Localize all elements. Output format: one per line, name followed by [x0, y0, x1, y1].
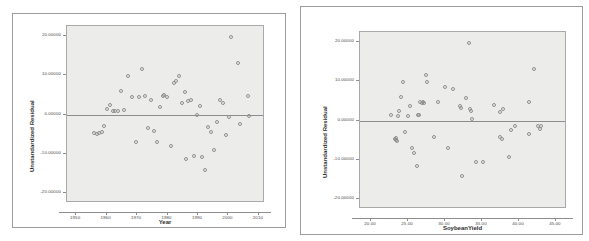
reference-line-zero-left	[67, 115, 263, 116]
data-point	[116, 109, 120, 113]
data-point	[229, 35, 233, 39]
y-axis-tick	[356, 159, 359, 160]
data-point	[467, 41, 471, 45]
data-point	[417, 113, 421, 117]
data-point	[221, 101, 225, 105]
data-point	[119, 89, 123, 93]
y-axis-tick-label: 10.00000	[26, 71, 61, 76]
x-axis-title-right: SoybeanYield	[359, 225, 566, 231]
data-point	[507, 155, 511, 159]
data-point	[397, 109, 401, 113]
y-axis-tick	[356, 198, 359, 199]
data-point	[140, 67, 144, 71]
data-point	[469, 109, 473, 113]
y-axis-tick-label: -20.00000	[26, 189, 61, 194]
data-point	[509, 128, 513, 132]
data-point	[105, 107, 109, 111]
y-axis-tick	[63, 35, 66, 36]
data-point	[399, 95, 403, 99]
plot-area-right	[359, 31, 566, 208]
data-point	[500, 137, 504, 141]
chart-frame-left: 20.0000010.000000.00000-10.00000-20.0000…	[12, 13, 286, 228]
data-point	[206, 125, 210, 129]
data-point	[401, 80, 405, 84]
y-axis-tick	[63, 153, 66, 154]
y-axis-tick	[63, 74, 66, 75]
data-point	[408, 104, 412, 108]
data-point	[532, 67, 536, 71]
data-point	[137, 95, 141, 99]
data-point	[184, 157, 188, 161]
data-point	[464, 96, 468, 100]
data-point	[424, 73, 428, 77]
data-point	[169, 144, 173, 148]
data-point	[474, 160, 478, 164]
data-point	[539, 124, 543, 128]
data-point	[152, 129, 156, 133]
data-point	[212, 148, 216, 152]
data-point	[451, 87, 455, 91]
data-point	[177, 74, 181, 78]
data-point	[395, 139, 399, 143]
y-axis-tick	[63, 114, 66, 115]
reference-line-zero-right	[360, 121, 565, 122]
data-point	[460, 174, 464, 178]
y-axis-tick-label: 10.00000	[319, 77, 354, 82]
data-point	[165, 95, 169, 99]
data-point	[498, 110, 502, 114]
data-point	[492, 103, 496, 107]
data-point	[446, 146, 450, 150]
y-axis-tick	[356, 80, 359, 81]
x-axis-line-left	[59, 212, 271, 213]
y-axis-tick	[356, 120, 359, 121]
data-point	[236, 61, 240, 65]
data-point	[122, 108, 126, 112]
data-point	[459, 106, 463, 110]
data-point	[195, 113, 199, 117]
y-axis-tick	[356, 41, 359, 42]
data-point	[158, 105, 162, 109]
y-axis-title-right: Unstandardized Residual	[322, 106, 328, 178]
data-point	[146, 126, 150, 130]
data-point	[203, 168, 207, 172]
data-point	[238, 122, 242, 126]
data-point	[513, 124, 517, 128]
data-point	[422, 101, 426, 105]
data-point	[432, 135, 436, 139]
y-axis-tick-label: -20.00000	[319, 195, 354, 200]
y-axis-title-left: Unstandardized Residual	[29, 100, 35, 172]
data-point	[198, 104, 202, 108]
data-point	[527, 132, 531, 136]
data-point	[425, 80, 429, 84]
y-axis-tick	[63, 192, 66, 193]
data-point	[143, 94, 147, 98]
chart-frame-right: 20.0000010.000000.00000-10.00000-20.0000…	[300, 6, 583, 235]
data-point	[443, 85, 447, 89]
data-point	[412, 151, 416, 155]
data-point	[389, 113, 393, 117]
data-point	[415, 164, 419, 168]
data-point	[247, 114, 251, 118]
data-point	[227, 115, 231, 119]
y-axis-tick-label: 20.00000	[26, 32, 61, 37]
data-point	[215, 120, 219, 124]
data-point	[130, 95, 134, 99]
data-point	[180, 101, 184, 105]
data-point	[200, 155, 204, 159]
figure-page: 20.0000010.000000.00000-10.00000-20.0000…	[0, 0, 589, 241]
data-point	[410, 146, 414, 150]
data-point	[149, 98, 153, 102]
data-point	[436, 100, 440, 104]
data-point	[174, 79, 178, 83]
data-point	[209, 130, 213, 134]
data-point	[246, 94, 250, 98]
data-point	[224, 133, 228, 137]
x-axis-title-left: Year	[66, 219, 264, 225]
data-point	[396, 114, 400, 118]
y-axis-tick-label: 20.00000	[319, 38, 354, 43]
data-point	[189, 98, 193, 102]
data-point	[481, 160, 485, 164]
data-point	[192, 154, 196, 158]
data-point	[470, 117, 474, 121]
data-point	[100, 130, 104, 134]
